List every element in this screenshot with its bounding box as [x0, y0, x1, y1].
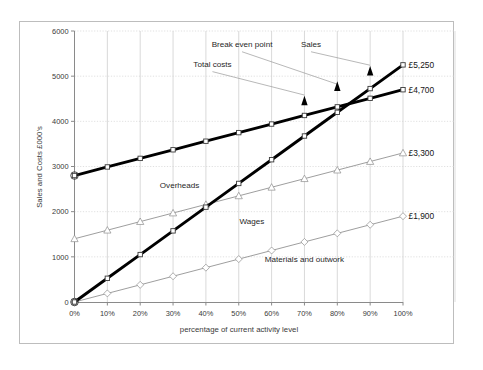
svg-text:30%: 30%	[166, 309, 181, 318]
svg-text:2000: 2000	[52, 207, 68, 216]
annotation-sales: Sales	[301, 40, 321, 49]
svg-text:£1,900: £1,900	[409, 211, 435, 221]
annotation-total-costs: Total costs	[193, 60, 231, 69]
svg-text:£3,300: £3,300	[409, 148, 435, 158]
svg-text:1000: 1000	[52, 253, 68, 262]
svg-text:90%: 90%	[363, 309, 378, 318]
svg-text:100%: 100%	[394, 309, 413, 318]
annotation-wages: Wages	[239, 217, 264, 226]
annotation-overheads: Overheads	[160, 181, 200, 190]
svg-text:80%: 80%	[330, 309, 345, 318]
svg-text:5000: 5000	[52, 72, 68, 81]
annotation-break-even-point: Break even point	[212, 40, 273, 49]
svg-text:3000: 3000	[52, 162, 68, 171]
chart-canvas: 0100020003000400050006000 0%10%20%30%40%…	[0, 0, 483, 370]
break-even-chart-figure: 0100020003000400050006000 0%10%20%30%40%…	[0, 0, 483, 370]
svg-text:£4,700: £4,700	[409, 85, 435, 95]
svg-text:£5,250: £5,250	[409, 60, 435, 70]
svg-text:50%: 50%	[231, 309, 246, 318]
svg-text:70%: 70%	[297, 309, 312, 318]
svg-text:10%: 10%	[100, 309, 115, 318]
svg-text:0%: 0%	[69, 309, 80, 318]
x-axis-title: percentage of current activity level	[180, 325, 299, 334]
svg-text:60%: 60%	[264, 309, 279, 318]
svg-text:20%: 20%	[133, 309, 148, 318]
svg-text:0: 0	[64, 298, 68, 307]
svg-text:4000: 4000	[52, 117, 68, 126]
svg-text:40%: 40%	[199, 309, 214, 318]
annotation-materials-and-outwork: Materials and outwork	[265, 255, 345, 264]
y-axis-title: Sales and Costs £000's	[35, 126, 44, 208]
svg-text:6000: 6000	[52, 27, 68, 36]
